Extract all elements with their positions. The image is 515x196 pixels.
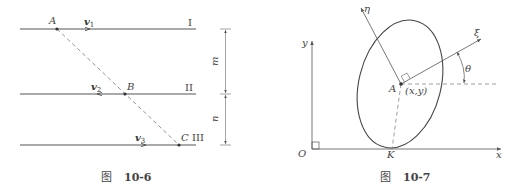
right-angle-mark-a xyxy=(401,73,410,82)
xi-axis xyxy=(401,39,481,84)
label-x-axis: x xyxy=(496,149,502,160)
point-c xyxy=(177,143,180,146)
label-line-II: II xyxy=(185,82,193,93)
label-point-a: A xyxy=(48,15,56,26)
figure-canvas: A B C v1 v2 v3 I II III m n 图10-6 xyxy=(0,0,515,196)
caption-fig-10-6: 图10-6 xyxy=(101,171,152,184)
label-v3: v3 xyxy=(135,132,145,145)
label-v1: v1 xyxy=(84,16,94,29)
label-v2: v2 xyxy=(91,81,101,94)
label-dimension-n: n xyxy=(209,116,220,122)
label-contact-k: K xyxy=(386,149,395,160)
label-center-a: A xyxy=(388,83,396,94)
label-origin: O xyxy=(298,148,306,159)
label-point-b: B xyxy=(126,81,134,92)
label-center-coords: (x,y) xyxy=(405,85,427,96)
label-y-axis: y xyxy=(301,37,308,48)
label-eta: η xyxy=(364,3,370,14)
label-line-III: III xyxy=(192,132,204,143)
point-a-center xyxy=(399,82,403,86)
theta-arc xyxy=(457,52,464,83)
label-theta: θ xyxy=(465,63,471,74)
caption-fig-10-7: 图10-7 xyxy=(380,171,431,184)
figure-10-7: y x O η ξ θ A (x,y) K 图10-7 xyxy=(298,3,502,184)
point-a xyxy=(55,27,58,30)
dashed-path-abc xyxy=(57,29,179,145)
label-line-I: I xyxy=(188,17,192,28)
label-dimension-m: m xyxy=(209,57,220,66)
figure-10-6: A B C v1 v2 v3 I II III m n 图10-6 xyxy=(20,15,231,184)
eta-axis xyxy=(361,8,401,84)
dimension-markers xyxy=(220,29,231,145)
label-xi: ξ xyxy=(474,27,480,38)
point-b xyxy=(123,92,126,95)
right-angle-mark-origin xyxy=(312,142,319,149)
label-point-c: C xyxy=(181,132,189,143)
